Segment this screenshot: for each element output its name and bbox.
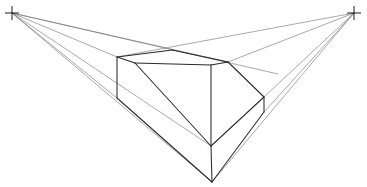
edge-peak-to-top-back-right: [172, 50, 228, 62]
guide-right-to-top-back-left: [117, 13, 354, 57]
edge-front-mid-to-front-bottom: [211, 146, 212, 182]
edge-top-back-left-to-inner-left: [117, 57, 135, 63]
edge-top-back-left-to-peak: [117, 50, 172, 57]
perspective-drawing: [0, 0, 367, 187]
edge-left-face-bottom-to-front-bottom: [117, 98, 212, 182]
guide-left-to-top-back-left: [12, 13, 117, 57]
guide-left-to-left-face-bottom: [12, 13, 117, 98]
guide-right-to-front-bottom: [212, 13, 354, 182]
edge-inner-front-to-top-back-right: [211, 62, 228, 65]
guide-right-to-bevel-right: [264, 13, 354, 97]
vanishing-point-layer: [5, 6, 361, 20]
object-edge-layer: [117, 50, 264, 182]
guide-right-to-top-back-right: [228, 13, 354, 62]
left-vanishing-point: [5, 6, 19, 20]
guide-left-to-front-bottom: [12, 13, 212, 182]
guide-left-to-top-right-far: [12, 13, 278, 74]
edge-bevel-right-low-to-front-bottom: [212, 112, 264, 182]
edge-bevel-right-to-front-mid: [211, 97, 264, 146]
guide-right-to-bevel-right-low: [264, 13, 354, 112]
guide-left-to-front-mid: [12, 13, 211, 146]
edge-top-back-right-to-bevel-right: [228, 62, 264, 97]
perspective-drawing-canvas: [0, 0, 367, 187]
edge-inner-left-to-front-mid: [135, 63, 211, 146]
edge-inner-left-to-inner-front: [135, 63, 211, 65]
